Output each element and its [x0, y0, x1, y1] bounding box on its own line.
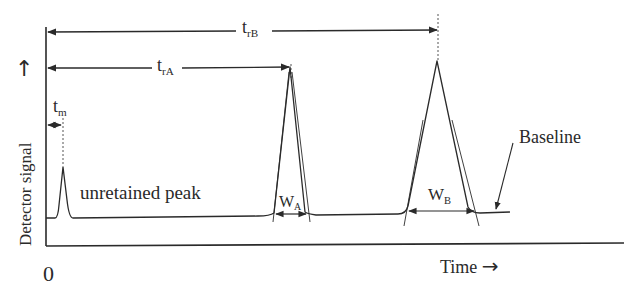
- chromatogram-plot: [0, 0, 638, 297]
- peak-b-right-tangent: [452, 120, 479, 226]
- right-arrow-icon: →: [482, 254, 499, 278]
- t-ra-label: trA: [157, 56, 174, 74]
- t-m-label: tm: [53, 97, 67, 115]
- t-rb-label: trB: [242, 18, 258, 36]
- up-arrow-icon: ↑: [15, 58, 33, 80]
- t-rb-arrow-left: [48, 31, 236, 32]
- baseline-callout-arrow: [496, 143, 513, 209]
- y-axis-label: Detector signal: [16, 143, 36, 246]
- baseline-label: Baseline: [519, 128, 581, 146]
- w-b-label: WB: [428, 186, 451, 203]
- origin-label: 0: [43, 263, 54, 285]
- unretained-peak-label: unretained peak: [80, 183, 201, 202]
- x-axis: [46, 243, 624, 246]
- t-ra-arrow-right: [182, 67, 289, 68]
- peak-b-left-tangent: [404, 120, 423, 226]
- chromatogram-diagram: trB trA tm unretained peak WA WB Baselin…: [0, 0, 638, 297]
- w-a-label: WA: [279, 194, 301, 210]
- t-rb-arrow-right: [272, 30, 437, 31]
- x-axis-label: Time →: [440, 256, 499, 276]
